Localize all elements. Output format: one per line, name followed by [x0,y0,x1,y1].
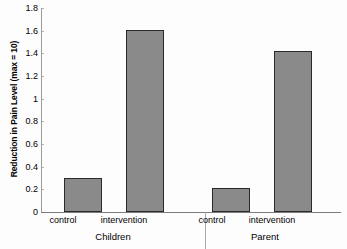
y-axis-ticks: 1.8 1.6 1.4 1.2 1 0.8 0.6 0.4 0.2 0 [0,0,38,249]
y-tick-label: 1.4 [4,49,38,58]
plot-area [41,8,341,212]
y-tick-label: 1.2 [4,72,38,81]
y-tick-label: 1 [4,94,38,103]
x-group-label-children: Children [83,231,143,242]
y-tick-label: 0.2 [4,185,38,194]
y-tick-label: 0 [4,208,38,217]
y-tick-label: 0.4 [4,162,38,171]
bar-parent-intervention [274,51,312,212]
bar-chart: Reduction in Pain Level (max = 10) 1.8 1… [0,0,347,249]
x-category-label-parent-intervention: intervention [234,215,310,225]
y-tick-label: 1.6 [4,26,38,35]
x-axis-line [41,212,341,213]
bar-children-control [64,178,102,212]
x-group-label-parent: Parent [235,231,295,242]
y-tick-label: 0.6 [4,140,38,149]
x-category-label-parent-control: control [193,215,231,225]
bar-parent-control [212,188,250,212]
x-category-label-children-control: control [44,215,82,225]
y-tick-label: 0.8 [4,117,38,126]
bar-children-intervention [126,30,164,212]
x-category-label-children-intervention: intervention [86,215,162,225]
y-tick-label: 1.8 [4,4,38,13]
